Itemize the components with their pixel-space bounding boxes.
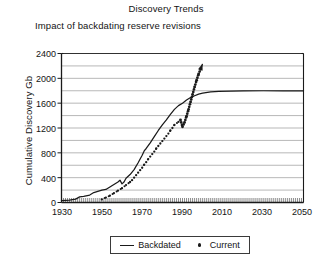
chart-figure: Discovery Trends Impact of backdating re… xyxy=(0,0,332,267)
dot-swatch-icon xyxy=(198,243,201,246)
series-current xyxy=(101,64,203,201)
legend-entry-backdated: Backdated xyxy=(120,240,181,250)
legend: Backdated Current xyxy=(110,236,250,254)
series-backdated xyxy=(62,91,304,201)
legend-label-current: Current xyxy=(210,240,240,250)
plot-area xyxy=(0,0,332,267)
line-swatch-icon xyxy=(120,245,134,246)
legend-label-backdated: Backdated xyxy=(138,240,181,250)
gridlines xyxy=(62,54,304,191)
legend-entry-current: Current xyxy=(193,240,240,250)
x-minor-ticks xyxy=(62,198,304,203)
